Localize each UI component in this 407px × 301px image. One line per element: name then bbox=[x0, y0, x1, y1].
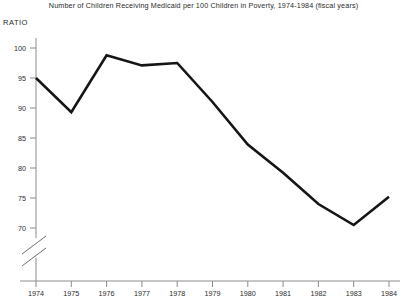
x-axis-ticks bbox=[36, 281, 389, 287]
x-axis-tick-label: 1975 bbox=[54, 289, 88, 298]
x-axis-tick-label: 1979 bbox=[196, 289, 230, 298]
x-axis-tick-label: 1982 bbox=[301, 289, 335, 298]
data-series-line bbox=[36, 55, 389, 225]
y-axis-tick-label: 85 bbox=[4, 134, 26, 143]
x-axis-tick-label: 1980 bbox=[231, 289, 265, 298]
axis-break-marker bbox=[22, 236, 46, 266]
x-axis-tick-label: 1976 bbox=[90, 289, 124, 298]
y-axis-ticks bbox=[30, 48, 36, 228]
x-axis-tick-label: 1984 bbox=[372, 289, 406, 298]
x-axis-tick-label: 1978 bbox=[160, 289, 194, 298]
y-axis-tick-label: 80 bbox=[4, 164, 26, 173]
x-axis-tick-label: 1977 bbox=[125, 289, 159, 298]
plot-area bbox=[0, 0, 407, 301]
chart-container: Number of Children Receiving Medicaid pe… bbox=[0, 0, 407, 301]
x-axis bbox=[20, 281, 400, 287]
y-axis-tick-label: 100 bbox=[4, 44, 26, 53]
y-axis-tick-label: 90 bbox=[4, 104, 26, 113]
y-axis-tick-label: 75 bbox=[4, 194, 26, 203]
y-axis-tick-label: 95 bbox=[4, 74, 26, 83]
y-axis-tick-label: 70 bbox=[4, 224, 26, 233]
x-axis-tick-label: 1983 bbox=[337, 289, 371, 298]
x-axis-tick-label: 1974 bbox=[19, 289, 53, 298]
x-axis-tick-label: 1981 bbox=[266, 289, 300, 298]
